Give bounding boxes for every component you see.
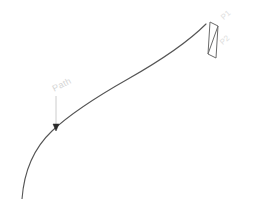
path-curve[interactable] bbox=[22, 24, 206, 199]
diagram-canvas: Path P1 P2 bbox=[0, 0, 264, 199]
diagram-svg bbox=[0, 0, 264, 199]
